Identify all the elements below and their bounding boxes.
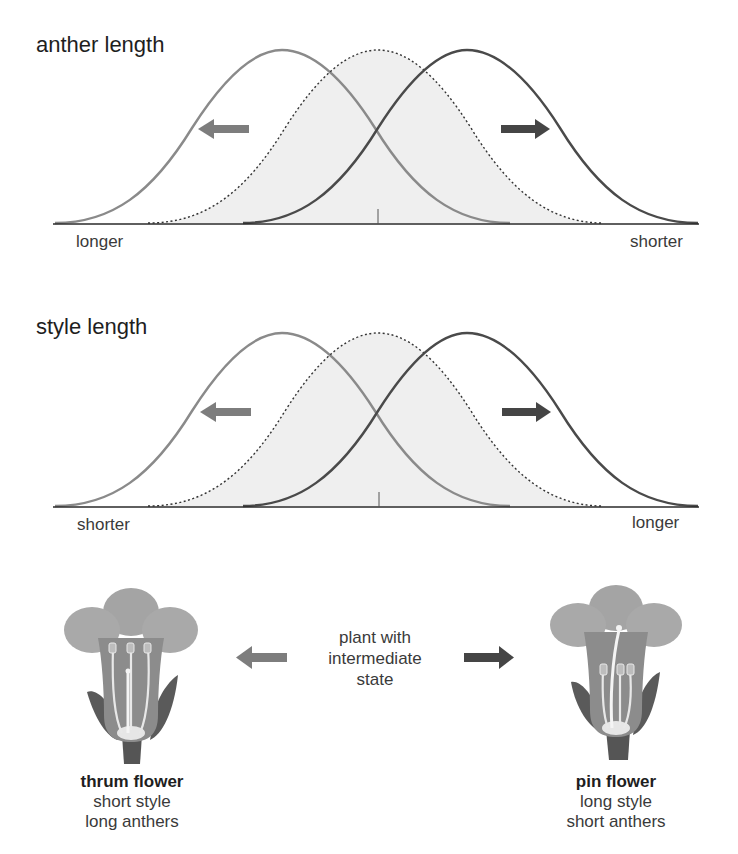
left-arrow-icon — [198, 119, 249, 139]
middle-left-arrow-icon — [236, 646, 287, 669]
chart1-right-axis-label: shorter — [630, 232, 683, 252]
chart2-left-axis-label: shorter — [77, 515, 130, 535]
pin-flower-illustration — [550, 585, 682, 760]
middle-right-arrow-icon — [464, 646, 514, 669]
left-arrow-icon — [200, 402, 251, 422]
intermediate-distribution-fill — [148, 333, 603, 506]
intermediate-state-label: plant with intermediate state — [305, 627, 445, 690]
diagram-canvas — [0, 0, 738, 854]
thrum-flower-caption: thrum flower short style long anthers — [42, 772, 222, 832]
pin-flower-name: pin flower — [526, 772, 706, 792]
chart-title-style-length: style length — [36, 314, 147, 340]
intermediate-distribution-fill — [148, 50, 603, 223]
chart1-left-axis-label: longer — [76, 232, 123, 252]
thrum-flower-name: thrum flower — [42, 772, 222, 792]
pin-flower-caption: pin flower long style short anthers — [526, 772, 706, 832]
right-arrow-icon — [501, 119, 550, 139]
chart-anther-length — [53, 50, 699, 224]
chart2-right-axis-label: longer — [632, 513, 679, 533]
chart-style-length — [53, 333, 699, 507]
thrum-flower-illustration — [64, 588, 198, 764]
right-arrow-icon — [502, 402, 551, 422]
